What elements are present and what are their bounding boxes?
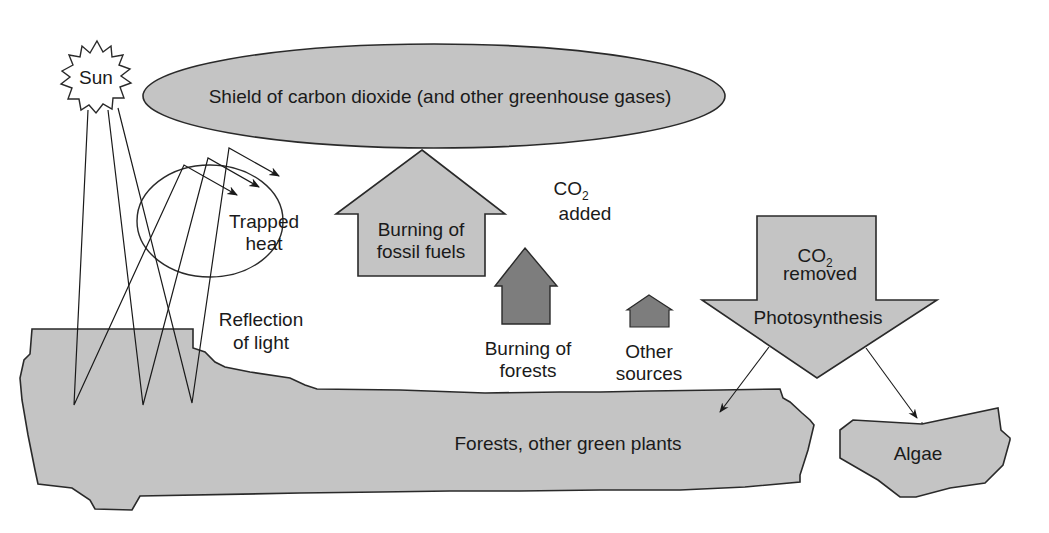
algae-label: Algae xyxy=(894,443,943,464)
forests-land-shape: Forests, other green plants xyxy=(20,329,814,510)
trapped-heat-label-2: heat xyxy=(246,233,284,254)
algae-shape: Algae xyxy=(840,408,1010,497)
other-sources-label-1: Other xyxy=(625,341,673,362)
reflection-label-2: of light xyxy=(233,332,290,353)
reflection-label-1: Reflection xyxy=(219,309,304,330)
forests-burning-label-2: forests xyxy=(499,360,556,381)
greenhouse-diagram: Forests, other green plants Algae Shield… xyxy=(0,0,1049,533)
co2-removed-word: removed xyxy=(783,263,857,284)
fossil-fuels-arrow: Burning of fossil fuels xyxy=(336,150,505,276)
co2-removed-arrow: CO2 removed Photosynthesis xyxy=(702,216,937,378)
other-sources-arrow: Other sources xyxy=(616,295,683,384)
co2-added-word: added xyxy=(559,203,612,224)
co2-text: CO xyxy=(553,178,582,199)
co2-subscript: 2 xyxy=(582,189,589,203)
forests-burning-arrow: Burning of forests xyxy=(485,248,572,381)
svg-text:CO2: CO2 xyxy=(553,178,589,203)
sun-icon: Sun xyxy=(61,41,131,113)
fossil-fuels-label-2: fossil fuels xyxy=(377,241,466,262)
co2-added-label: CO2 added xyxy=(553,178,611,224)
photosynthesis-label: Photosynthesis xyxy=(754,307,883,328)
sun-label: Sun xyxy=(79,67,113,88)
forests-burning-label-1: Burning of xyxy=(485,338,572,359)
other-sources-label-2: sources xyxy=(616,363,683,384)
fossil-fuels-label-1: Burning of xyxy=(378,219,465,240)
trapped-heat-label-1: Trapped xyxy=(229,211,299,232)
shield-label: Shield of carbon dioxide (and other gree… xyxy=(209,86,672,107)
forests-label: Forests, other green plants xyxy=(454,433,681,454)
co2-shield: Shield of carbon dioxide (and other gree… xyxy=(143,44,725,148)
